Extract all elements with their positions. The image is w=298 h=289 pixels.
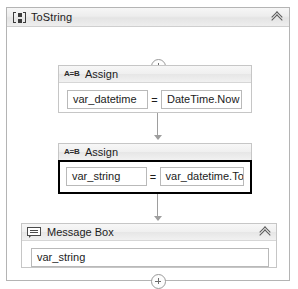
sequence-collapse-icon[interactable] <box>272 12 283 23</box>
activity-assign-1-body: var_datetime = DateTime.Now <box>59 83 251 117</box>
activity-message-box-title: Message Box <box>47 226 114 238</box>
sequence-icon <box>13 11 26 24</box>
activity-assign-2-header[interactable]: A=B Assign <box>59 144 251 161</box>
activity-assign-1[interactable]: A=B Assign var_datetime = DateTime.Now <box>58 65 252 113</box>
activity-assign-2-body: var_string = var_datetime.ToStr <box>60 162 250 191</box>
assign-2-left-field[interactable]: var_string <box>66 167 147 186</box>
connector-line-lower <box>157 194 158 218</box>
sequence-title: ToString <box>31 11 72 23</box>
assign-1-operator: = <box>148 94 161 106</box>
activity-message-box-body: var_string <box>22 241 276 276</box>
assign-1-right-field[interactable]: DateTime.Now <box>161 90 242 109</box>
activity-assign-2-title: Assign <box>85 146 118 158</box>
assign-2-operator: = <box>147 171 160 183</box>
activity-message-box-header[interactable]: Message Box <box>22 224 276 241</box>
connector-line-middle <box>157 113 158 137</box>
assign-ab-icon: A=B <box>64 147 79 157</box>
activity-assign-2-selection-outline[interactable]: var_string = var_datetime.ToStr <box>58 160 252 194</box>
sequence-body: A=B Assign var_datetime = DateTime.Now A… <box>7 27 289 280</box>
message-bubble-icon <box>27 227 41 238</box>
message-box-text-field[interactable]: var_string <box>31 248 269 267</box>
activity-message-box[interactable]: Message Box var_string <box>21 223 277 268</box>
add-activity-bottom-button[interactable] <box>151 274 166 289</box>
sequence-container[interactable]: ToString A=B Assign var_datetime = DateT… <box>6 7 290 281</box>
assign-2-right-field[interactable]: var_datetime.ToStr <box>160 167 244 186</box>
assign-ab-icon: A=B <box>64 69 79 79</box>
activity-assign-1-title: Assign <box>85 68 118 80</box>
message-box-collapse-icon[interactable] <box>260 227 271 238</box>
connector-arrow-lower <box>154 216 162 221</box>
sequence-header[interactable]: ToString <box>7 8 289 27</box>
assign-1-left-field[interactable]: var_datetime <box>67 90 148 109</box>
activity-assign-1-header[interactable]: A=B Assign <box>59 66 251 83</box>
connector-arrow-middle <box>154 135 162 140</box>
